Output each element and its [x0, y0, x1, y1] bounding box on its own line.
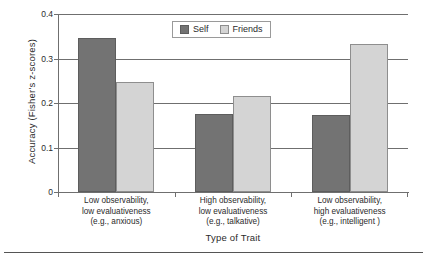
category-label-line: (e.g., anxious) — [58, 217, 175, 228]
category-label-3: Low observability,high evaluativeness(e.… — [291, 196, 408, 236]
legend-entry-self: Self — [180, 24, 209, 34]
category-label-line: High observability, — [175, 196, 292, 207]
y-axis-title: Accuracy (Fisher's z-scores) — [26, 7, 37, 197]
category-label-line: low evaluativeness — [175, 207, 292, 218]
legend-label-friends: Friends — [233, 24, 263, 34]
category-label-line: Low observability, — [58, 196, 175, 207]
x-axis-title: Type of Trait — [58, 232, 408, 243]
category-label-line: (e.g., talkative) — [175, 217, 292, 228]
y-tick-label-0: 0 — [48, 187, 53, 197]
bar-self-group2 — [195, 114, 233, 192]
plot-area: 00.10.20.30.4 — [58, 14, 408, 192]
legend-entry-friends: Friends — [220, 24, 263, 34]
bottom-divider — [4, 252, 423, 253]
x-axis-line — [58, 192, 409, 193]
bar-self-group1 — [78, 38, 116, 192]
y-tick-label-0.4: 0.4 — [41, 9, 53, 19]
legend-swatch-self-icon — [180, 25, 189, 34]
bars-layer — [58, 14, 408, 192]
chart-legend: Self Friends — [172, 21, 271, 38]
category-label-line: high evaluativeness — [291, 207, 408, 218]
category-label-line: low evaluativeness — [58, 207, 175, 218]
bar-friends-group2 — [233, 96, 271, 192]
y-tick-label-0.3: 0.3 — [41, 54, 53, 64]
legend-swatch-friends-icon — [220, 25, 229, 34]
bar-friends-group3 — [350, 44, 388, 192]
category-label-line: (e.g., intelligent ) — [291, 217, 408, 228]
y-tick-label-0.1: 0.1 — [41, 143, 53, 153]
bar-friends-group1 — [116, 82, 154, 192]
category-label-line: Low observability, — [291, 196, 408, 207]
x-axis-category-labels: Low observability,low evaluativeness(e.g… — [58, 196, 408, 236]
category-label-2: High observability,low evaluativeness(e.… — [175, 196, 292, 236]
bar-chart-figure: Accuracy (Fisher's z-scores) 00.10.20.30… — [0, 0, 427, 262]
legend-label-self: Self — [193, 24, 209, 34]
category-label-1: Low observability,low evaluativeness(e.g… — [58, 196, 175, 236]
y-tick-label-0.2: 0.2 — [41, 98, 53, 108]
bar-self-group3 — [312, 115, 350, 192]
